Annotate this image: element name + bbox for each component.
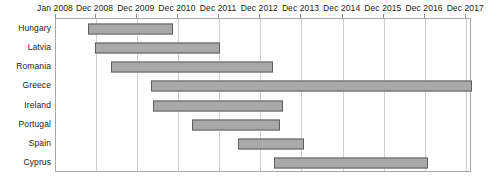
x-axis-tick-label: Dec 2015: [364, 3, 401, 13]
y-axis-tick-label: Romania: [16, 61, 51, 71]
x-axis-tick-label: Dec 2017: [447, 3, 484, 13]
x-axis-tick-label: Dec 2010: [158, 3, 195, 13]
gantt-bar[interactable]: [95, 42, 220, 53]
x-axis-tick-label: Jan 2008: [37, 3, 73, 13]
gantt-bar[interactable]: [153, 100, 282, 111]
gantt-bar[interactable]: [88, 23, 173, 34]
y-axis-tick-label: Ireland: [24, 100, 51, 110]
plot-area: [55, 18, 471, 172]
y-axis-tick-label: Greece: [23, 80, 51, 90]
x-axis-tick-label: Dec 2014: [323, 3, 360, 13]
x-axis-tick-label: Dec 2012: [241, 3, 278, 13]
gridline: [425, 19, 426, 171]
y-axis-tick-label: Latvia: [28, 42, 51, 52]
x-axis-tick-label: Dec 2008: [76, 3, 113, 13]
x-axis-tick-label: Dec 2013: [282, 3, 319, 13]
y-axis-category-labels: HungaryLatviaRomaniaGreeceIrelandPortuga…: [0, 18, 51, 172]
y-axis-tick-label: Portugal: [19, 119, 51, 129]
gantt-bar[interactable]: [238, 139, 304, 150]
y-axis-tick-label: Cyprus: [23, 157, 51, 167]
gantt-bar[interactable]: [151, 81, 471, 92]
gridline: [466, 19, 467, 171]
gridline: [384, 19, 385, 171]
gantt-bar[interactable]: [192, 119, 279, 130]
y-axis-tick-label: Spain: [29, 138, 51, 148]
gantt-chart: Jan 2008Dec 2008Dec 2009Dec 2010Dec 2011…: [0, 0, 491, 192]
gantt-bar[interactable]: [111, 62, 273, 73]
y-axis-tick-label: Hungary: [18, 23, 51, 33]
x-axis-tick-label: Dec 2009: [117, 3, 154, 13]
gantt-bar[interactable]: [274, 158, 427, 169]
x-axis-tick-label: Dec 2016: [405, 3, 442, 13]
x-axis-tick-label: Dec 2011: [200, 3, 237, 13]
gridline: [343, 19, 344, 171]
x-axis: Jan 2008Dec 2008Dec 2009Dec 2010Dec 2011…: [0, 0, 491, 18]
